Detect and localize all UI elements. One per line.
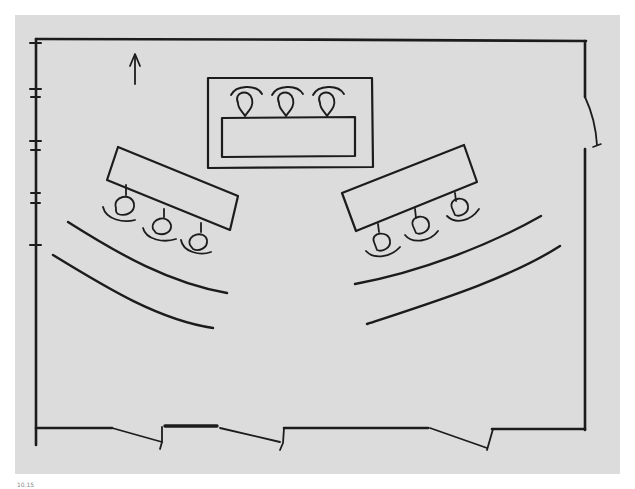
courtroom: [0, 0, 635, 489]
